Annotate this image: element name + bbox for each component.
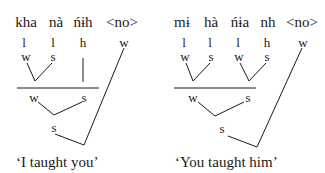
right-word-level-w: w [188, 91, 197, 104]
right-word-branch [198, 102, 244, 116]
right-weight-1: l [182, 36, 186, 49]
left-extrametrical-branch [84, 48, 124, 145]
left-word-2: nà [49, 15, 63, 30]
right-foot-w-2: w [234, 50, 243, 63]
left-foot-s: s [50, 50, 55, 63]
left-root-branch [55, 134, 84, 145]
right-weight-3: l [236, 36, 240, 49]
left-foot-w: w [21, 50, 30, 63]
right-word-1: mɨ [174, 15, 190, 30]
left-caption: ‘I taught you’ [16, 155, 98, 170]
right-foot-branch-2 [240, 63, 266, 81]
left-word-4: <no> [106, 15, 138, 30]
right-word-2: hà [204, 15, 218, 30]
left-weight-4: w [119, 36, 128, 49]
left-foot-branch [27, 63, 52, 81]
left-weight-2: l [51, 36, 55, 49]
left-weight-3: h [80, 36, 87, 49]
right-word-3: ńɨa [231, 15, 249, 30]
right-weight-4: h [264, 36, 271, 49]
left-word-branch [38, 102, 82, 115]
left-word-3: ńɨh [73, 15, 92, 30]
right-word-level-s: s [245, 91, 250, 104]
right-word-5: <no> [286, 15, 318, 30]
right-word-4: nh [261, 15, 276, 30]
right-caption: ‘You taught him’ [175, 155, 278, 170]
right-root-branch [228, 136, 257, 147]
right-foot-s-1: s [208, 50, 213, 63]
right-top-s: s [219, 122, 224, 135]
left-word-level-s: s [81, 91, 86, 104]
right-weight-2: l [208, 36, 212, 49]
right-foot-s-2: s [264, 50, 269, 63]
right-foot-w-1: w [180, 50, 189, 63]
left-word-1: kha [15, 15, 37, 30]
left-top-s: s [51, 121, 56, 134]
left-weight-1: l [22, 36, 26, 49]
right-weight-5: w [298, 36, 307, 49]
left-word-level-w: w [29, 91, 38, 104]
right-foot-branch-1 [186, 63, 210, 81]
